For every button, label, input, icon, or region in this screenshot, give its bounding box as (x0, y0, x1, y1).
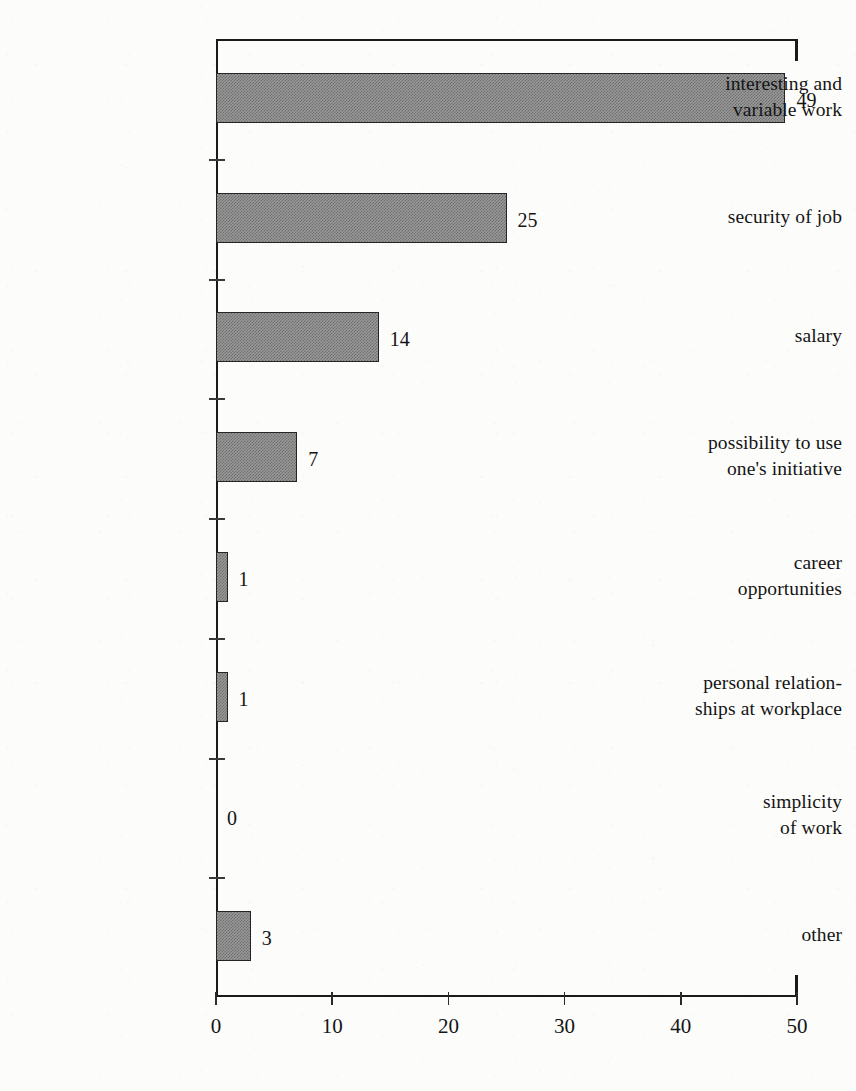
category-label-line: possibility to use (650, 430, 842, 456)
x-axis-tick (448, 992, 450, 1005)
x-axis-tick (796, 992, 798, 1005)
category-label-line: ships at workplace (650, 696, 842, 722)
category-label-line: other (650, 922, 842, 948)
x-axis-tick (564, 992, 566, 1005)
value-label: 3 (262, 928, 272, 948)
category-label: personal relation-ships at workplace (650, 670, 856, 722)
x-axis-tick-label: 40 (670, 1016, 691, 1037)
bar (216, 672, 228, 722)
x-axis-tick-label: 10 (322, 1016, 343, 1037)
category-label: possibility to useone's initiative (650, 430, 856, 482)
category-label: other (650, 922, 856, 948)
bar-chart-figure: interesting andvariable worksecurity of … (0, 0, 856, 1091)
bar (216, 552, 228, 602)
value-label: 25 (518, 210, 538, 230)
right-spine-stub-top (795, 39, 798, 61)
value-label: 0 (227, 808, 237, 828)
bar (216, 911, 251, 961)
category-label-line: simplicity (650, 789, 842, 815)
value-label: 7 (308, 449, 318, 469)
value-label: 1 (239, 689, 249, 709)
x-axis-tick-label: 50 (787, 1016, 808, 1037)
bar (216, 312, 379, 362)
y-axis-tick (209, 279, 225, 281)
x-axis-tick (680, 992, 682, 1005)
category-label-line: of work (650, 815, 842, 841)
category-label-line: opportunities (650, 576, 842, 602)
y-axis-tick (209, 398, 225, 400)
category-label-line: personal relation- (650, 670, 842, 696)
y-axis-tick (209, 159, 225, 161)
x-axis-tick (215, 992, 217, 1005)
category-label: security of job (650, 204, 856, 230)
category-label: simplicityof work (650, 789, 856, 841)
category-label: salary (650, 323, 856, 349)
x-axis-tick-label: 0 (211, 1016, 222, 1037)
x-axis-tick (331, 992, 333, 1005)
category-label: interesting andvariable work (650, 71, 856, 123)
category-label-line: career (650, 550, 842, 576)
y-axis-tick (209, 638, 225, 640)
category-label: careeropportunities (650, 550, 856, 602)
value-label: 1 (239, 569, 249, 589)
x-axis-tick-label: 20 (438, 1016, 459, 1037)
value-label: 49 (796, 90, 816, 110)
category-label-line: salary (650, 323, 842, 349)
y-axis-tick (209, 758, 225, 760)
category-label-line: security of job (650, 204, 842, 230)
bar (216, 193, 507, 243)
category-label-line: one's initiative (650, 456, 842, 482)
plot-frame (216, 39, 797, 997)
y-axis-tick (209, 518, 225, 520)
y-axis-tick (209, 877, 225, 879)
value-label: 14 (390, 329, 410, 349)
bar (216, 432, 297, 482)
x-axis-tick-label: 30 (554, 1016, 575, 1037)
